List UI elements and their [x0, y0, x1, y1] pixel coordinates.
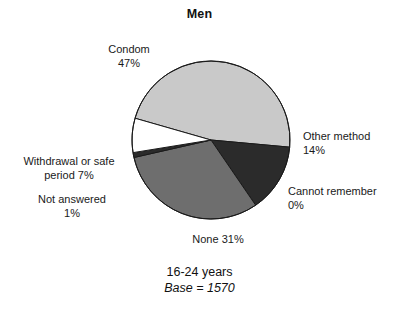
pie-label-not-answered: Not answered 1% [22, 193, 122, 220]
pie-label-cannot-remember: Cannot remember 0% [288, 185, 399, 212]
pie-label-condom-name: Condom [77, 43, 181, 57]
pie-label-none: None 31% [163, 233, 273, 247]
chart-subtitle-age: 16-24 years [0, 264, 399, 280]
pie-label-withdrawal-value: period 7% [8, 169, 130, 183]
chart-subtitle-base: Base = 1570 [0, 280, 399, 296]
pie-label-withdrawal-name: Withdrawal or safe [8, 155, 130, 169]
chart-footer: 16-24 years Base = 1570 [0, 264, 399, 296]
pie-label-condom: Condom 47% [77, 43, 181, 70]
pie-label-other-method-name: Other method [303, 130, 399, 144]
pie-chart-figure: Men Condom 47% Other method 14% Cannot r… [0, 0, 399, 309]
pie-label-none-value: 31% [222, 233, 244, 245]
pie-label-other-method: Other method 14% [303, 130, 399, 157]
pie-label-not-answered-value: 1% [22, 207, 122, 221]
pie-label-withdrawal: Withdrawal or safe period 7% [8, 155, 130, 182]
pie-label-cannot-remember-value: 0% [288, 199, 399, 213]
pie-label-not-answered-name: Not answered [22, 193, 122, 207]
pie-slices [132, 61, 290, 219]
pie-label-cannot-remember-name: Cannot remember [288, 185, 399, 199]
pie-label-other-method-value: 14% [303, 144, 399, 158]
pie-label-condom-value: 47% [77, 57, 181, 71]
pie-label-none-name: None [192, 233, 218, 245]
